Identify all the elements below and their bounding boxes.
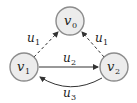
svg-text:1: 1 (35, 38, 40, 47)
svg-text:0: 0 (72, 21, 77, 30)
svg-text:3: 3 (71, 93, 76, 102)
node-v2: v 2 (100, 53, 128, 81)
svg-text:v: v (17, 59, 25, 74)
svg-text:u: u (63, 51, 71, 65)
graph-diagram: v 0 v 1 v 2 u 1 u 1 u 2 u 3 (0, 0, 137, 103)
edge-label-u3: u 3 (63, 86, 76, 102)
svg-text:2: 2 (115, 67, 120, 76)
node-v0: v 0 (56, 7, 84, 35)
svg-text:u: u (27, 31, 35, 45)
svg-text:1: 1 (25, 67, 30, 76)
edge-label-u1-left: u 1 (27, 31, 40, 47)
svg-text:u: u (63, 86, 71, 100)
edge-label-u2: u 2 (63, 51, 76, 67)
edge-label-u1-right: u 1 (95, 31, 108, 47)
svg-text:u: u (95, 31, 103, 45)
node-v1: v 1 (10, 53, 38, 81)
svg-text:2: 2 (71, 58, 76, 67)
svg-text:v: v (64, 13, 72, 28)
edge-v2-v1 (40, 77, 102, 87)
svg-text:1: 1 (103, 38, 108, 47)
svg-text:v: v (107, 59, 115, 74)
